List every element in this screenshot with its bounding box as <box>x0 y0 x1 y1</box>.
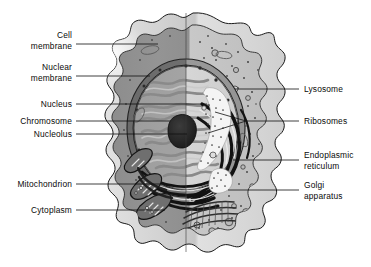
label-chromosome: Chromosome <box>0 116 72 127</box>
label-nuclear-membrane: Nuclear membrane <box>0 62 72 83</box>
cell-body <box>92 13 285 252</box>
label-golgi-apparatus: Golgi apparatus <box>304 180 371 201</box>
label-endoplasmic-reticulum: Endoplasmic reticulum <box>304 150 371 171</box>
cell-diagram-figure: Cell membrane Nuclear membrane Nucleus C… <box>0 0 371 267</box>
label-lysosome: Lysosome <box>304 84 371 95</box>
label-nucleus: Nucleus <box>0 99 72 110</box>
label-cell-membrane: Cell membrane <box>0 30 72 51</box>
label-nucleolus: Nucleolus <box>0 129 72 140</box>
label-mitochondrion: Mitochondrion <box>0 179 72 190</box>
nucleolus-shape <box>168 114 196 148</box>
label-cytoplasm: Cytoplasm <box>0 205 72 216</box>
label-ribosomes: Ribosomes <box>304 116 371 127</box>
